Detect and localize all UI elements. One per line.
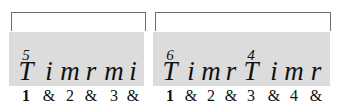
finger-stroke: m [200,58,222,85]
beat-count: & [263,88,285,104]
finger-stroke: m [283,58,305,85]
measure-2: 6 T 1 i & m 2 r & 4 T 3 i & m 4 r & [0,0,338,109]
finger-stroke: r [220,58,242,85]
beat-count: 4 [283,88,305,104]
finger-stroke: i [263,58,285,85]
beat-count: 1 [159,88,181,104]
beat-count: 3 [240,88,262,104]
beat-count: & [180,88,202,104]
beat-count: & [220,88,242,104]
measure-2-bracket [155,12,331,31]
finger-stroke: i [180,58,202,85]
finger-stroke: T [240,58,262,85]
beat-count: 2 [200,88,222,104]
finger-stroke: T [159,58,181,85]
beat-count: & [305,88,327,104]
finger-stroke: r [305,58,327,85]
